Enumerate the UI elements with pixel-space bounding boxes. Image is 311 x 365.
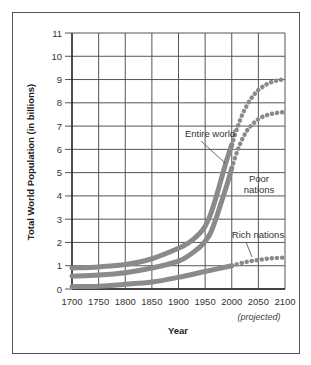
y-tick-label: 10 [51, 51, 62, 62]
y-tick-label: 0 [57, 284, 62, 295]
y-tick-label: 7 [57, 121, 62, 132]
x-axis-label: Year [168, 325, 188, 336]
y-tick-label: 4 [57, 190, 62, 201]
x-tick-label: 1700 [61, 296, 82, 307]
y-tick-label: 6 [57, 144, 62, 155]
annotation-entire-world: Entire world [185, 128, 235, 139]
annotation-poor-nations-line2: nations [244, 184, 275, 195]
y-tick-label: 11 [52, 28, 62, 39]
population-chart: 01234567891011 1700175018001850190019502… [0, 0, 311, 365]
annotation-leader-entire-world [201, 141, 225, 163]
x-tick-label: 2050 [248, 296, 269, 307]
x-tick-label: 1850 [141, 296, 162, 307]
projected-note: (projected) [237, 312, 280, 322]
annotation-rich-nations: Rich nations [232, 229, 285, 240]
y-tick-labels: 01234567891011 [51, 28, 62, 295]
annotation-leader-rich-nations [246, 242, 252, 257]
x-tick-label: 1900 [168, 296, 189, 307]
y-tick-label: 9 [57, 74, 62, 85]
y-axis-label: Total World Population (in billions) [25, 84, 36, 240]
x-tick-label: 1800 [115, 296, 136, 307]
y-tick-label: 8 [57, 97, 62, 108]
x-tick-label: 2000 [221, 296, 242, 307]
y-tick-label: 1 [57, 260, 62, 271]
x-tick-label: 1950 [195, 296, 216, 307]
y-tick-label: 5 [57, 167, 62, 178]
x-tick-label: 2100 [274, 296, 295, 307]
annotation-poor-nations-line1: Poor [249, 173, 269, 184]
y-tick-label: 2 [57, 237, 62, 248]
x-tick-labels: 170017501800185019001950200020502100 [61, 296, 295, 307]
y-tick-label: 3 [57, 214, 62, 225]
x-tick-label: 1750 [88, 296, 109, 307]
annotations: Entire worldPoornationsRich nations [185, 128, 284, 257]
